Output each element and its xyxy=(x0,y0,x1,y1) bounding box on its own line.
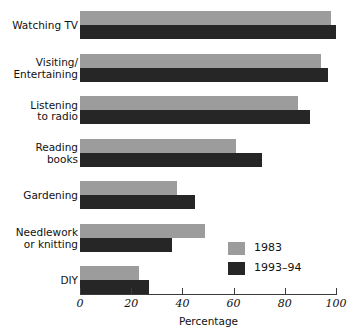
x-tick-label: 0 xyxy=(60,297,100,310)
bar-series-1983 xyxy=(80,139,236,153)
bar-series-1993-94 xyxy=(80,238,172,252)
x-tick xyxy=(285,288,286,294)
legend-swatch xyxy=(228,262,245,275)
category-row: Watching TV xyxy=(0,11,357,39)
category-label: Gardening xyxy=(0,190,78,202)
plot-area: Watching TVVisiting/ EntertainingListeni… xyxy=(0,0,357,334)
category-label: Needlework or knitting xyxy=(0,227,78,250)
x-tick xyxy=(131,288,132,294)
bar-series-1993-94 xyxy=(80,280,149,294)
bar-series-1993-94 xyxy=(80,110,310,124)
bar-chart: 1983 and 1993-94 Watching TVVisiting/ En… xyxy=(0,0,357,334)
x-axis-line xyxy=(80,294,337,295)
legend-label: 1983 xyxy=(254,241,282,254)
category-row: Visiting/ Entertaining xyxy=(0,54,357,82)
x-tick-label: 80 xyxy=(265,297,305,310)
x-tick-label: 20 xyxy=(111,297,151,310)
category-label: Reading books xyxy=(0,142,78,165)
category-label: Watching TV xyxy=(0,20,78,32)
bar-series-1993-94 xyxy=(80,25,336,39)
x-tick xyxy=(80,288,81,294)
x-axis-title: Percentage xyxy=(80,315,337,327)
x-tick xyxy=(182,288,183,294)
category-row: Listening to radio xyxy=(0,96,357,124)
bar-series-1983 xyxy=(80,96,298,110)
category-row: DIY xyxy=(0,266,357,294)
x-tick xyxy=(234,288,235,294)
bar-series-1993-94 xyxy=(80,68,328,82)
x-tick-label: 40 xyxy=(162,297,202,310)
bar-series-1983 xyxy=(80,11,331,25)
bar-series-1983 xyxy=(80,266,139,280)
bar-series-1983 xyxy=(80,224,205,238)
x-tick xyxy=(336,288,337,294)
category-label: Listening to radio xyxy=(0,100,78,123)
category-label: DIY xyxy=(0,275,78,287)
category-row: Gardening xyxy=(0,181,357,209)
x-tick-label: 60 xyxy=(214,297,254,310)
legend-swatch xyxy=(228,242,245,255)
bar-series-1983 xyxy=(80,54,321,68)
bar-series-1993-94 xyxy=(80,153,262,167)
category-row: Reading books xyxy=(0,139,357,167)
bar-series-1993-94 xyxy=(80,195,195,209)
category-label: Visiting/ Entertaining xyxy=(0,57,78,80)
x-tick-label: 100 xyxy=(316,297,356,310)
bar-series-1983 xyxy=(80,181,177,195)
category-row: Needlework or knitting xyxy=(0,224,357,252)
legend-label: 1993–94 xyxy=(254,261,302,274)
